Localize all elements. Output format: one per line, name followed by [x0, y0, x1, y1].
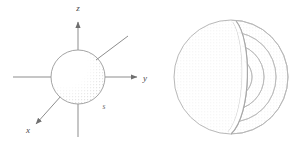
right-panel — [153, 0, 306, 151]
figure-root: x y z — [0, 0, 306, 151]
y-axis-label: y — [142, 73, 147, 83]
cutaway-shell-sphere-svg — [153, 0, 306, 151]
left-panel: x y z — [0, 0, 153, 151]
sphere-body — [51, 50, 105, 104]
radius-pointer-line — [96, 36, 128, 60]
s-label: s — [103, 102, 106, 111]
coordinate-axes-sphere-svg: x y z — [0, 0, 153, 151]
z-axis-label: z — [75, 3, 80, 13]
x-axis-label: x — [25, 125, 30, 135]
radius-pointer — [96, 36, 128, 60]
